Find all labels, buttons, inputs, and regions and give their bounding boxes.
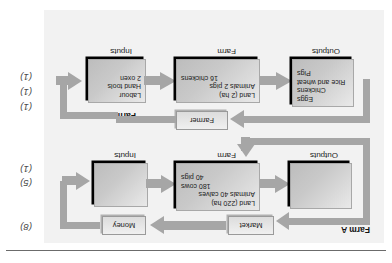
- farm-b-output-line-4: Pigs: [297, 69, 349, 78]
- farm-a-output-return-pipe-horizontal: [282, 218, 370, 225]
- farm-a-arrow-farm-to-outputs: [260, 175, 290, 193]
- farm-b-outputs-text: Eggs Chickens Rice and wheat Pigs: [297, 69, 349, 103]
- farm-a-animals-line-2: 180 cows: [181, 181, 255, 190]
- farm-b-inputs-box: Labour Hand tools 2 oxen: [88, 59, 146, 103]
- farm-b-output-line-3: Rice and wheat: [297, 77, 349, 86]
- farm-b-farmer-box: Farmer: [176, 111, 228, 130]
- farm-a-animals-line-3: 40 pigs: [181, 173, 255, 182]
- farm-a-land-row: Land (220 ha): [181, 198, 255, 207]
- farm-a-inputs-caption: Inputs: [114, 151, 136, 160]
- mark-b-3: (1): [20, 162, 32, 176]
- farm-b-farm-box: Land (2 ha) Animals 2 pigs 16 chickens: [176, 59, 260, 103]
- farm-b-arrow-inputs-to-farm: [144, 72, 176, 90]
- farm-b-land-value: (2 ha): [219, 92, 237, 99]
- farm-a-land-label: Land: [239, 200, 255, 207]
- farm-a-animals-row: Animals 40 calves: [181, 190, 255, 199]
- farm-b-output-line-1: Eggs: [297, 94, 349, 103]
- farm-b-outputs-box: Eggs Chickens Rice and wheat Pigs: [292, 59, 354, 107]
- marks-farm-a-group: (1) (1) (1): [20, 70, 32, 115]
- diagram-panel: Farm A Market Money: [44, 10, 384, 243]
- mark-a-1: (1): [20, 100, 32, 115]
- farm-a-arrow-inputs-to-farm: [146, 175, 176, 193]
- farm-a-title: Farm A: [341, 225, 370, 235]
- farm-b-output-line-2: Chickens: [297, 86, 349, 95]
- rotated-page-content: Farm A Market Money: [0, 0, 392, 263]
- farm-a-money-box: Money: [102, 216, 146, 235]
- farm-a-arrow-market-to-money: [148, 216, 226, 235]
- farm-b-animals-line-1: 2 pigs: [209, 83, 228, 90]
- farm-b-inputs-caption: Inputs: [110, 47, 132, 56]
- mark-b-2: (5): [20, 176, 32, 190]
- farm-b-animals-label: Animals: [230, 83, 255, 90]
- farm-b-animals-line-2: 16 chickens: [181, 73, 255, 82]
- farm-a-market-box: Market: [228, 216, 274, 235]
- farm-b-diagram: Farm B Labour Hand tools 2 oxen Inputs: [44, 10, 384, 131]
- farm-b-input-line-1: Labour: [93, 90, 141, 99]
- farm-a-diagram: Farm A Market Money: [44, 131, 384, 243]
- farm-b-farm-caption: Farm: [217, 47, 236, 56]
- farm-a-outputs-caption: Outputs: [310, 151, 338, 160]
- marks-farm-b-group: (5) (1): [20, 162, 32, 190]
- farm-a-money-to-inputs-pipe-vertical: [60, 181, 67, 229]
- scanned-page: Farm A Market Money: [0, 0, 392, 263]
- farm-b-farm-text: Land (2 ha) Animals 2 pigs 16 chickens: [181, 73, 255, 99]
- farm-a-animals-label: Animals: [230, 191, 255, 198]
- farm-b-arrow-farm-to-outputs: [260, 72, 292, 90]
- page-divider-rule: [6, 250, 386, 251]
- farm-a-output-return-pipe-vertical: [363, 169, 370, 225]
- farm-b-outputs-caption: Outputs: [312, 47, 340, 56]
- farm-b-animals-row: Animals 2 pigs: [181, 82, 255, 91]
- mark-b-1: (8): [20, 222, 32, 233]
- farm-b-inputs-text: Labour Hand tools 2 oxen: [93, 73, 141, 99]
- farm-b-farmer-to-inputs-pipe-horizontal: [60, 112, 118, 119]
- farm-b-outputs-to-farmer-pipe-horizontal: [238, 116, 370, 123]
- farm-b-input-line-3: 2 oxen: [93, 73, 141, 82]
- farm-a-animals-line-1: 40 calves: [199, 191, 229, 198]
- farm-b-farmer-out-pipe: [116, 116, 176, 123]
- farm-a-farm-caption: Farm: [217, 151, 236, 160]
- mark-a-2: (1): [20, 85, 32, 100]
- farm-a-inputs-box: [94, 163, 148, 207]
- farm-b-farmer-label: Farmer: [177, 112, 227, 129]
- farm-b-land-label: Land: [239, 92, 255, 99]
- farm-a-farm-box: Land (220 ha) Animals 40 calves 180 cows…: [176, 163, 260, 211]
- farm-a-land-value: (220 ha): [211, 200, 237, 207]
- farm-b-input-line-2: Hand tools: [93, 82, 141, 91]
- farm-a-money-label: Money: [103, 217, 145, 234]
- marks-farm-b: (8): [20, 222, 32, 233]
- farm-a-farm-text: Land (220 ha) Animals 40 calves 180 cows…: [181, 173, 255, 207]
- farm-a-market-label: Market: [229, 217, 273, 234]
- farm-b-land-row: Land (2 ha): [181, 90, 255, 99]
- mark-a-3: (1): [20, 70, 32, 85]
- farm-a-outputs-box: [290, 163, 352, 209]
- farm-a-bottom-loop-left-vertical: [363, 139, 370, 173]
- farm-a-bottom-loop-horizontal: [244, 138, 370, 145]
